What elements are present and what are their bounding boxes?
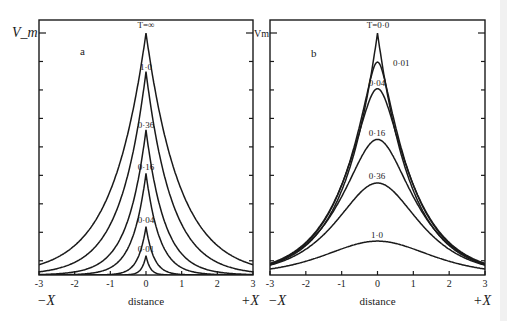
panel-label: a — [80, 45, 85, 57]
x-tick-label: -3 — [35, 278, 43, 289]
curve-label: T=∞ — [138, 20, 155, 30]
curve-label: 0·04 — [138, 215, 155, 225]
x-tick-label: 3 — [251, 278, 256, 289]
x-tick-label: 1 — [411, 278, 416, 289]
x-tick-label: -3 — [266, 278, 274, 289]
x-axis-label: distance — [128, 295, 164, 307]
x-tick-label: 0 — [144, 278, 149, 289]
x-right-label: +X — [241, 293, 259, 308]
curve-label: 0·01 — [138, 244, 155, 254]
x-tick-label: -1 — [337, 278, 345, 289]
x-tick-label: 3 — [483, 278, 488, 289]
chart-panel-b: -3-2-10123Vmb−X+XdistanceT=0·00·010·040·… — [254, 20, 491, 308]
curve-label: T=0·0 — [367, 20, 390, 30]
x-left-label: −X — [37, 293, 55, 308]
curve-label: 0·36 — [369, 171, 386, 181]
curve-0·36 — [270, 183, 485, 265]
x-axis-label: distance — [359, 295, 395, 307]
x-tick-label: 1 — [179, 278, 184, 289]
y-axis-label: V_m — [12, 25, 38, 40]
curve-label: 1·0 — [140, 62, 152, 72]
x-tick-label: -1 — [106, 278, 114, 289]
x-tick-label: -2 — [302, 278, 310, 289]
curve-label: 1·0 — [371, 230, 383, 240]
figure: -3-2-10123V_ma−X+XdistanceT=∞1·00·360·16… — [0, 0, 507, 321]
plot-frame — [39, 20, 253, 275]
x-tick-label: 2 — [447, 278, 452, 289]
x-right-label: +X — [473, 293, 491, 308]
curve-label: 0·01 — [393, 58, 410, 68]
chart-panel-a: -3-2-10123V_ma−X+XdistanceT=∞1·00·360·16… — [12, 20, 259, 308]
x-tick-label: 0 — [375, 278, 380, 289]
x-left-label: −X — [268, 293, 286, 308]
y-axis-label: Vm — [254, 28, 269, 39]
curve-label: 0·16 — [369, 128, 386, 138]
curve-label: 0·36 — [138, 120, 155, 130]
curve-label: 0·16 — [138, 162, 155, 172]
x-tick-label: 2 — [215, 278, 220, 289]
curve-label: 0·04 — [369, 78, 386, 88]
panel-label: b — [311, 47, 317, 59]
x-tick-label: -2 — [70, 278, 78, 289]
